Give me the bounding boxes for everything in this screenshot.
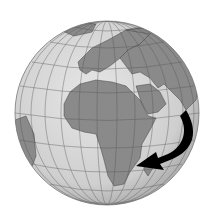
- globe-map: [0, 0, 212, 221]
